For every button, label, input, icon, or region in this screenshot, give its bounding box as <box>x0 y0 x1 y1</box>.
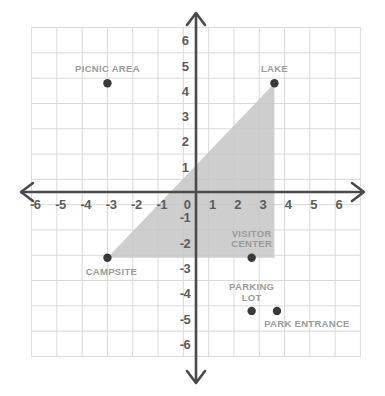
point-label-park-entrance: PARK ENTRANCE <box>264 319 350 330</box>
axis-tick-y: 6 <box>182 34 189 47</box>
axis-tick-origin: 0 <box>184 198 191 211</box>
point-label-visitor-center: VISITORCENTER <box>231 229 272 250</box>
axis-tick-y: -5 <box>180 312 191 325</box>
data-point-marker <box>247 254 255 262</box>
axis-tick-y: 3 <box>182 110 189 123</box>
axis-tick-x: 5 <box>310 198 317 211</box>
point-label-lake: LAKE <box>261 64 288 75</box>
data-point-marker <box>273 307 281 315</box>
data-point-marker <box>103 79 111 87</box>
data-point-marker <box>103 254 111 262</box>
axis-tick-y: -6 <box>180 337 191 350</box>
axis-tick-x: 1 <box>209 198 216 211</box>
point-label-parking-lot: PARKINGLOT <box>229 282 274 303</box>
axis-tick-x: 3 <box>260 198 267 211</box>
data-point-marker <box>247 307 255 315</box>
axis-tick-x: 6 <box>335 198 342 211</box>
point-label-campsite: CAMPSITE <box>86 266 138 277</box>
axis-tick-y: 4 <box>182 84 189 97</box>
axis-tick-x: -6 <box>30 198 41 211</box>
axis-tick-x: -3 <box>106 198 117 211</box>
axis-tick-x: 4 <box>285 198 292 211</box>
axis-tick-y: 1 <box>182 160 189 173</box>
axis-tick-y: -3 <box>180 261 191 274</box>
axis-tick-x: -1 <box>156 198 167 211</box>
axis-tick-y: -2 <box>180 236 191 249</box>
axis-tick-x: -5 <box>55 198 66 211</box>
axis-tick-x: -2 <box>131 198 142 211</box>
axis-tick-y: 2 <box>182 135 189 148</box>
axis-tick-y: -4 <box>180 287 191 300</box>
axis-tick-y: 5 <box>182 59 189 72</box>
coordinate-plane-figure: -6-5-4-3-2-10123456654321-1-2-3-4-5-6 PI… <box>0 0 385 396</box>
point-label-picnic-area: PICNIC AREA <box>75 64 140 75</box>
axis-tick-y: -1 <box>180 211 191 224</box>
axis-tick-x: -4 <box>81 198 92 211</box>
data-point-marker <box>270 79 278 87</box>
axis-tick-x: 2 <box>234 198 241 211</box>
